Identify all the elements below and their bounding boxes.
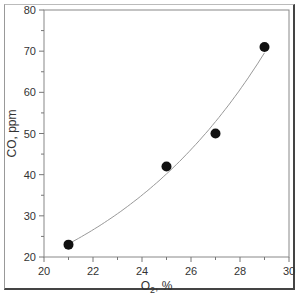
x-tick-label: 30: [283, 265, 295, 277]
y-tick-label: 20: [24, 251, 36, 263]
x-axis-title: O2, %: [141, 279, 173, 295]
x-tick-label: 28: [234, 265, 246, 277]
y-tick-label: 80: [24, 4, 36, 16]
y-tick-label: 60: [24, 86, 36, 98]
x-tick-label: 22: [87, 265, 99, 277]
scatter-chart: 20222426283020304050607080O2, %CO, ppm: [0, 0, 301, 301]
data-point: [64, 240, 74, 250]
y-tick-label: 70: [24, 45, 36, 57]
y-tick-label: 50: [24, 128, 36, 140]
x-tick-label: 24: [136, 265, 148, 277]
data-point: [211, 129, 221, 139]
y-tick-label: 30: [24, 210, 36, 222]
y-tick-label: 40: [24, 169, 36, 181]
data-point: [162, 161, 172, 171]
y-axis-title: CO, ppm: [5, 109, 19, 157]
plot-area: [44, 10, 289, 257]
x-tick-label: 20: [38, 265, 50, 277]
x-tick-label: 26: [185, 265, 197, 277]
data-point: [260, 42, 270, 52]
trend-line: [69, 53, 265, 244]
